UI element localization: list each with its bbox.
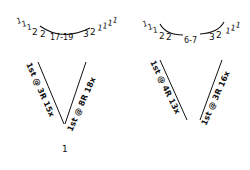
number-label: 2 [32, 27, 38, 37]
number-label: 3 [83, 29, 89, 39]
left-leg-label: 1st @ 3R 15x [24, 61, 56, 119]
knitting-shaping-diagram: 1 1 1 2 2 17-19 3 2 1 1 1 1 1st @ 3R 15x… [0, 0, 250, 170]
right-leg-label: 1st @ 8R 18x [66, 75, 98, 133]
tick-mark: 1 [112, 15, 119, 25]
number-label: 2 [216, 30, 222, 40]
center-count: 6-7 [184, 36, 197, 45]
number-label: 2 [159, 31, 165, 41]
number-label: 3 [209, 32, 215, 42]
number-label: 2 [40, 29, 46, 39]
center-count: 17-19 [50, 33, 73, 42]
number-label: 2 [166, 32, 172, 42]
number-label: 2 [90, 27, 96, 37]
tick-mark: 1 [152, 25, 158, 35]
bottom-mark: 1 [62, 144, 68, 154]
tick-mark: 1 [235, 20, 242, 30]
left-leg-label: 1st @ 4R 13x [148, 59, 182, 116]
right-diagram: 1 1 1 2 2 6-7 3 2 1 1 1 1st @ 4R 13x 1st… [142, 19, 242, 127]
left-diagram: 1 1 1 2 2 17-19 3 2 1 1 1 1 1st @ 3R 15x… [16, 15, 119, 154]
